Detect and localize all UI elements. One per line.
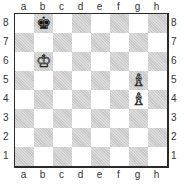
file-labels-bottom: abcdefgh (14, 169, 166, 180)
square-e3[interactable] (91, 109, 110, 128)
square-h7[interactable] (148, 33, 167, 52)
square-b2[interactable] (34, 128, 53, 147)
file-label-h: h (147, 1, 166, 12)
square-a3[interactable] (15, 109, 34, 128)
square-a6[interactable] (15, 52, 34, 71)
square-g5[interactable]: ♗ (129, 71, 148, 90)
square-b5[interactable] (34, 71, 53, 90)
square-f7[interactable] (110, 33, 129, 52)
square-g6[interactable] (129, 52, 148, 71)
square-g2[interactable] (129, 128, 148, 147)
square-d4[interactable] (72, 90, 91, 109)
square-a7[interactable] (15, 33, 34, 52)
white-king-icon[interactable]: ♔ (36, 52, 51, 71)
rank-label-3: 3 (171, 112, 177, 123)
square-e8[interactable] (91, 14, 110, 33)
square-f5[interactable] (110, 71, 129, 90)
square-e6[interactable] (91, 52, 110, 71)
square-g3[interactable] (129, 109, 148, 128)
square-c2[interactable] (53, 128, 72, 147)
square-b6[interactable]: ♔ (34, 52, 53, 71)
square-h2[interactable] (148, 128, 167, 147)
square-a5[interactable] (15, 71, 34, 90)
square-b7[interactable] (34, 33, 53, 52)
file-label-d: d (71, 169, 90, 180)
file-label-c: c (52, 169, 71, 180)
rank-label-5: 5 (3, 74, 9, 85)
square-a8[interactable] (15, 14, 34, 33)
square-d6[interactable] (72, 52, 91, 71)
square-h4[interactable] (148, 90, 167, 109)
square-f4[interactable] (110, 90, 129, 109)
square-a4[interactable] (15, 90, 34, 109)
square-d2[interactable] (72, 128, 91, 147)
rank-labels-left: 87654321 (3, 13, 9, 165)
file-label-e: e (90, 169, 109, 180)
rank-label-1: 1 (3, 150, 9, 161)
file-label-h: h (147, 169, 166, 180)
square-e2[interactable] (91, 128, 110, 147)
file-label-f: f (109, 1, 128, 12)
file-label-b: b (33, 1, 52, 12)
square-h8[interactable] (148, 14, 167, 33)
square-e1[interactable] (91, 147, 110, 166)
file-label-e: e (90, 1, 109, 12)
rank-label-7: 7 (171, 36, 177, 47)
square-g1[interactable] (129, 147, 148, 166)
file-label-a: a (14, 1, 33, 12)
square-e4[interactable] (91, 90, 110, 109)
square-f3[interactable] (110, 109, 129, 128)
square-f2[interactable] (110, 128, 129, 147)
square-d7[interactable] (72, 33, 91, 52)
file-label-g: g (128, 169, 147, 180)
file-label-g: g (128, 1, 147, 12)
square-h5[interactable] (148, 71, 167, 90)
white-bishop-icon[interactable]: ♗ (131, 90, 146, 109)
square-h6[interactable] (148, 52, 167, 71)
square-d8[interactable] (72, 14, 91, 33)
square-g8[interactable] (129, 14, 148, 33)
file-labels-top: abcdefgh (14, 1, 166, 12)
square-c4[interactable] (53, 90, 72, 109)
rank-label-1: 1 (171, 150, 177, 161)
square-f8[interactable] (110, 14, 129, 33)
rank-label-6: 6 (3, 55, 9, 66)
square-f1[interactable] (110, 147, 129, 166)
square-a2[interactable] (15, 128, 34, 147)
square-c6[interactable] (53, 52, 72, 71)
file-label-f: f (109, 169, 128, 180)
file-label-d: d (71, 1, 90, 12)
black-king-icon[interactable]: ♚ (36, 14, 51, 33)
square-c1[interactable] (53, 147, 72, 166)
chess-board[interactable]: ♚♔♗♗ (14, 13, 169, 168)
square-b8[interactable]: ♚ (34, 14, 53, 33)
square-d5[interactable] (72, 71, 91, 90)
square-b3[interactable] (34, 109, 53, 128)
square-h1[interactable] (148, 147, 167, 166)
square-c8[interactable] (53, 14, 72, 33)
square-f6[interactable] (110, 52, 129, 71)
file-label-b: b (33, 169, 52, 180)
white-bishop-icon[interactable]: ♗ (131, 71, 146, 90)
square-d3[interactable] (72, 109, 91, 128)
square-c3[interactable] (53, 109, 72, 128)
square-e5[interactable] (91, 71, 110, 90)
rank-label-3: 3 (3, 112, 9, 123)
rank-label-6: 6 (171, 55, 177, 66)
square-a1[interactable] (15, 147, 34, 166)
rank-label-4: 4 (171, 93, 177, 104)
rank-labels-right: 87654321 (171, 13, 177, 165)
rank-label-7: 7 (3, 36, 9, 47)
square-c5[interactable] (53, 71, 72, 90)
square-g4[interactable]: ♗ (129, 90, 148, 109)
rank-label-8: 8 (171, 17, 177, 28)
square-g7[interactable] (129, 33, 148, 52)
square-c7[interactable] (53, 33, 72, 52)
square-b4[interactable] (34, 90, 53, 109)
square-d1[interactable] (72, 147, 91, 166)
square-b1[interactable] (34, 147, 53, 166)
square-e7[interactable] (91, 33, 110, 52)
rank-label-5: 5 (171, 74, 177, 85)
rank-label-2: 2 (3, 131, 9, 142)
square-h3[interactable] (148, 109, 167, 128)
